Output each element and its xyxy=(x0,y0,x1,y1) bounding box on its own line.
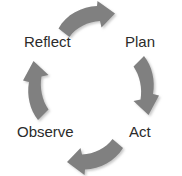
arrow-bottom-act-to-observe xyxy=(67,139,123,175)
arrow-left-observe-to-reflect xyxy=(23,61,49,120)
cycle-label-plan: Plan xyxy=(125,34,155,49)
cycle-diagram: Reflect Plan Act Observe xyxy=(0,0,182,176)
cycle-label-observe: Observe xyxy=(17,124,74,139)
arrow-top-reflect-to-plan xyxy=(59,1,116,37)
cycle-label-reflect: Reflect xyxy=(24,34,71,49)
cycle-arrows-graphic xyxy=(0,0,182,176)
arrow-right-plan-to-act xyxy=(134,56,160,115)
cycle-label-act: Act xyxy=(129,124,151,139)
